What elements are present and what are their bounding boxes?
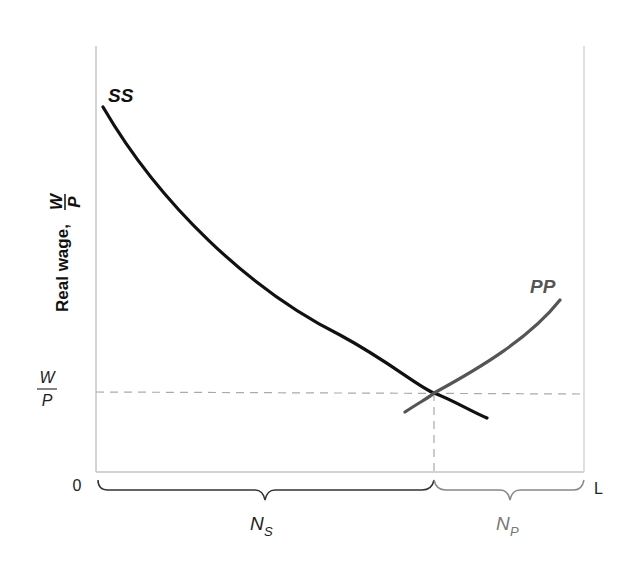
svg-text:Real wage,: Real wage,	[53, 224, 72, 312]
y-axis-label: Real wage, W P	[47, 192, 84, 312]
np-label: N	[496, 513, 510, 534]
eq-wage-num: W	[39, 369, 56, 386]
equilibrium-wage-line	[96, 392, 584, 394]
pp-curve	[405, 300, 560, 412]
np-brace	[434, 480, 584, 500]
np-sub: P	[510, 524, 519, 539]
x-end-label: L	[594, 480, 603, 497]
ss-label: SS	[108, 85, 134, 106]
pp-label: PP	[530, 276, 556, 297]
ss-curve	[103, 107, 487, 418]
origin-label: 0	[73, 477, 82, 494]
ns-brace	[98, 480, 434, 500]
ns-label: N	[250, 513, 264, 534]
ns-sub: S	[264, 524, 273, 539]
ylabel-frac-num: W	[47, 192, 66, 210]
labor-market-chart: SS PP Real wage, W P W P 0 L N S N P	[0, 0, 631, 561]
ylabel-frac-den: P	[65, 196, 84, 208]
eq-wage-den: P	[42, 392, 53, 409]
